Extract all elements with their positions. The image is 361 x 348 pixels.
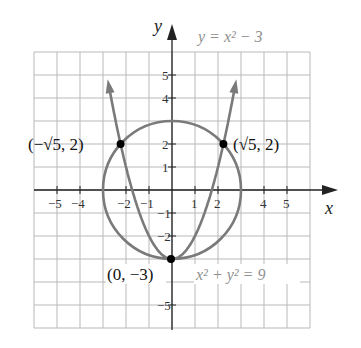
- y-tick-label: −1: [157, 206, 171, 221]
- x-tick-label: 4: [260, 196, 267, 211]
- y-axis-arrow-icon: [167, 24, 177, 40]
- point-neg-sqrt5-2: [117, 140, 125, 148]
- x-tick-label: −4: [71, 196, 85, 211]
- y-tick-label: 4: [162, 91, 169, 106]
- circle-equation-label: x² + y² = 9: [195, 266, 265, 284]
- parabola-equation-label: y = x² − 3: [196, 28, 263, 46]
- y-tick-label: −2: [157, 229, 171, 244]
- graph-figure: −5−4−2−112455421−1−2−5 (−√5, 2) (√5, 2) …: [0, 0, 361, 348]
- x-axis-label: x: [324, 198, 333, 218]
- x-tick-label: 5: [283, 196, 290, 211]
- y-tick-label: 1: [162, 160, 169, 175]
- point-label-neg-sqrt5-2: (−√5, 2): [28, 135, 84, 154]
- x-tick-label: 2: [214, 196, 221, 211]
- x-axis-arrow-icon: [322, 185, 338, 195]
- y-tick-label: 5: [162, 68, 169, 83]
- parabola-left-arrow-icon: [106, 79, 115, 94]
- point-0-neg3: [167, 255, 175, 263]
- point-label-0-neg3: (0, −3): [107, 265, 153, 284]
- x-tick-label: −2: [117, 196, 131, 211]
- y-axis-label: y: [152, 16, 162, 36]
- parabola-right-arrow-icon: [229, 79, 238, 94]
- x-tick-label: −1: [140, 196, 154, 211]
- point-label-sqrt5-2: (√5, 2): [233, 135, 279, 154]
- x-tick-label: 1: [191, 196, 198, 211]
- x-tick-label: −5: [48, 196, 62, 211]
- y-tick-label: 2: [162, 137, 169, 152]
- y-tick-label: −5: [157, 298, 171, 313]
- point-sqrt5-2: [219, 140, 227, 148]
